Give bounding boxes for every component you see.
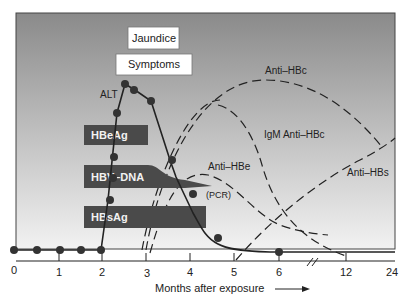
x-ticks — [59, 253, 346, 261]
alt-label: ALT — [100, 89, 118, 100]
hbsag-label: HBsAg — [91, 211, 128, 223]
svg-text:3: 3 — [144, 267, 150, 279]
svg-text:2: 2 — [99, 266, 105, 278]
hepatitis-b-timeline-chart: 0 1 2 3 4 5 6 12 24 Months after exposur… — [0, 0, 411, 303]
igm-anti-hbc-label: IgM Anti–HBc — [264, 129, 325, 140]
hbeag-label: HBeAg — [91, 129, 128, 141]
hbvdna-label: HBV–DNA — [91, 171, 144, 183]
svg-text:0: 0 — [11, 264, 17, 276]
anti-hbc-label: Anti–HBc — [265, 65, 307, 76]
svg-text:6: 6 — [276, 266, 282, 278]
anti-hbe-label: Anti–HBe — [208, 161, 251, 172]
jaundice-label: Jaundice — [132, 32, 176, 44]
pcr-label: (PCR) — [206, 190, 231, 200]
axis-break-icon — [307, 258, 318, 266]
x-axis-label: Months after exposure — [155, 282, 264, 294]
arrow-right-icon — [275, 286, 310, 292]
svg-text:5: 5 — [231, 266, 237, 278]
svg-text:12: 12 — [340, 266, 352, 278]
svg-text:1: 1 — [56, 266, 62, 278]
anti-hbs-label: Anti–HBs — [347, 167, 389, 178]
svg-text:4: 4 — [187, 266, 193, 278]
x-tick-labels: 0 1 2 3 4 5 6 12 24 — [11, 264, 398, 279]
symptoms-label: Symptoms — [128, 58, 180, 70]
svg-text:24: 24 — [386, 266, 398, 278]
